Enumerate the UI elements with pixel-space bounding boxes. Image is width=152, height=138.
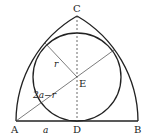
- radius-r: [45, 43, 77, 77]
- label-A: A: [10, 124, 19, 135]
- arc-BC: [77, 16, 138, 121]
- label-r: r: [54, 59, 59, 69]
- label-D: D: [73, 124, 81, 135]
- label-E: E: [79, 78, 86, 89]
- geometry-diagram: C E A D B r 2a−r a: [0, 0, 152, 138]
- label-C: C: [73, 3, 81, 14]
- segment-A-to-tangent: [16, 50, 114, 121]
- label-B: B: [134, 124, 141, 135]
- arc-AC: [16, 16, 77, 121]
- label-a: a: [43, 125, 48, 135]
- label-2a-r: 2a−r: [32, 90, 57, 100]
